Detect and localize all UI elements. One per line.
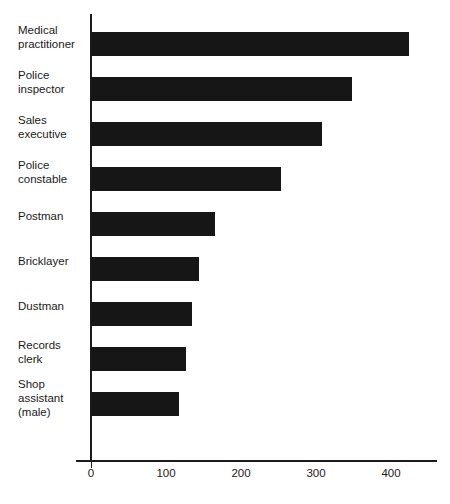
x-tick-label: 0 [88, 466, 94, 480]
bars-layer: MedicalpractitionerPoliceinspectorSalese… [0, 0, 450, 504]
bar-row: Salesexecutive [0, 111, 450, 156]
x-tick-label: 300 [306, 466, 325, 480]
bar-category-label-line: assistant [18, 391, 86, 405]
bar-category-label: Bricklayer [18, 254, 86, 268]
bar-category-label-line: Sales [18, 113, 86, 127]
bar-category-label-line: inspector [18, 82, 86, 96]
bar [91, 257, 199, 281]
bar-category-label-line: Dustman [18, 299, 86, 313]
x-tick-label: 100 [156, 466, 175, 480]
bar-row: Postman [0, 201, 450, 246]
bar-row: Shopassistant(male) [0, 381, 450, 426]
bar-row: Bricklayer [0, 246, 450, 291]
bar-category-label-line: Police [18, 68, 86, 82]
x-tick-mark-zero [91, 461, 92, 468]
bar-category-label: Policeinspector [18, 68, 86, 96]
bar-category-label-line: executive [18, 127, 86, 141]
bar-category-label: Postman [18, 209, 86, 223]
bar-category-label-line: constable [18, 172, 86, 186]
bar-category-label: Policeconstable [18, 158, 86, 186]
bar-category-label: Dustman [18, 299, 86, 313]
bar [91, 347, 186, 371]
bar [91, 167, 281, 191]
bar [91, 77, 352, 101]
bar-category-label: Recordsclerk [18, 338, 86, 366]
bar-category-label-line: Medical [18, 23, 86, 37]
bar-row: Medicalpractitioner [0, 21, 450, 66]
bar [91, 122, 322, 146]
bar-row: Policeinspector [0, 66, 450, 111]
bar-row: Recordsclerk [0, 336, 450, 381]
bar-category-label: Shopassistant(male) [18, 377, 86, 419]
bar-category-label-line: Postman [18, 209, 86, 223]
bar-row: Policeconstable [0, 156, 450, 201]
bar-category-label-line: Bricklayer [18, 254, 86, 268]
x-axis-tick-labels: 0100200300400 [0, 466, 450, 486]
bar [91, 392, 179, 416]
bar-category-label-line: Shop [18, 377, 86, 391]
x-tick-label: 200 [231, 466, 250, 480]
bar-row: Dustman [0, 291, 450, 336]
bar [91, 302, 192, 326]
bar-category-label-line: Records [18, 338, 86, 352]
bar-category-label: Medicalpractitioner [18, 23, 86, 51]
x-tick-label: 400 [381, 466, 400, 480]
bar-category-label-line: Police [18, 158, 86, 172]
bar-category-label-line: clerk [18, 352, 86, 366]
bar-category-label-line: (male) [18, 405, 86, 419]
bar-category-label-line: practitioner [18, 37, 86, 51]
bar-category-label: Salesexecutive [18, 113, 86, 141]
bar-chart: MedicalpractitionerPoliceinspectorSalese… [0, 0, 450, 504]
bar [91, 212, 215, 236]
bar [91, 32, 409, 56]
